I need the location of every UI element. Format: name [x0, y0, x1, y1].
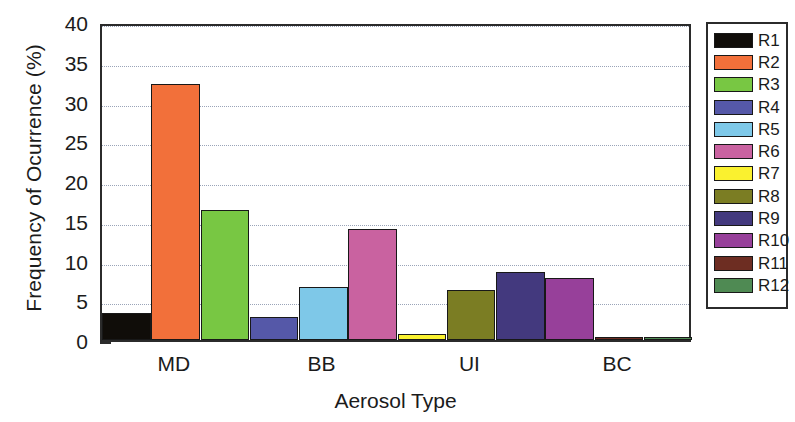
legend-label: R5: [758, 121, 780, 138]
legend-item-r1: R1: [714, 29, 786, 51]
plot-area: [100, 24, 691, 342]
legend-label: R10: [758, 232, 789, 249]
legend-swatch-r12: [714, 278, 753, 293]
y-tick-label: 40: [44, 13, 88, 34]
bar-r8: [447, 290, 496, 340]
bar-r11: [595, 337, 644, 340]
legend-swatch-r8: [714, 189, 753, 204]
legend-item-r7: R7: [714, 163, 786, 185]
legend-item-r2: R2: [714, 51, 786, 73]
plot-inner: [102, 26, 689, 340]
y-tick-label: 35: [44, 53, 88, 74]
legend-label: R7: [758, 165, 780, 182]
bar-r5: [299, 287, 348, 340]
bar-r12: [644, 337, 693, 340]
y-tick-label: 30: [44, 93, 88, 114]
y-tick-major: [100, 342, 111, 344]
x-tick-label-bc: BC: [572, 352, 662, 376]
legend-label: R3: [758, 76, 780, 93]
y-tick-label: 0: [44, 331, 88, 352]
gridline: [102, 26, 689, 27]
bar-chart-figure: Frequency of Ocurrence (%) 0510152025303…: [0, 0, 795, 422]
bar-r3: [201, 210, 250, 340]
y-tick-label: 20: [44, 172, 88, 193]
legend-label: R12: [758, 277, 789, 294]
legend-item-r9: R9: [714, 207, 786, 229]
bar-r2: [151, 84, 200, 340]
legend-swatch-r4: [714, 100, 753, 115]
legend-swatch-r11: [714, 256, 753, 271]
legend-swatch-r3: [714, 77, 753, 92]
bar-r10: [545, 278, 594, 340]
y-axis-title: Frequency of Ocurrence (%): [22, 18, 46, 338]
y-tick-label: 15: [44, 212, 88, 233]
legend-swatch-r2: [714, 55, 753, 70]
x-tick-label-md: MD: [129, 352, 219, 376]
legend-label: R9: [758, 210, 780, 227]
legend-item-r3: R3: [714, 74, 786, 96]
legend-swatch-r5: [714, 122, 753, 137]
legend-item-r12: R12: [714, 274, 786, 296]
legend-swatch-r10: [714, 233, 753, 248]
bar-r4: [250, 317, 299, 340]
y-tick-label: 10: [44, 252, 88, 273]
legend: R1R2R3R4R5R6R7R8R9R10R11R12: [706, 22, 788, 309]
legend-item-r11: R11: [714, 252, 786, 274]
legend-item-r5: R5: [714, 118, 786, 140]
gridline: [102, 66, 689, 67]
legend-label: R2: [758, 54, 780, 71]
y-tick-label: 5: [44, 291, 88, 312]
legend-item-r4: R4: [714, 96, 786, 118]
bar-r9: [496, 272, 545, 340]
legend-swatch-r6: [714, 144, 753, 159]
legend-label: R8: [758, 188, 780, 205]
legend-item-r6: R6: [714, 140, 786, 162]
legend-swatch-r1: [714, 33, 753, 48]
legend-label: R11: [758, 255, 788, 272]
x-tick-label-bb: BB: [277, 352, 367, 376]
legend-item-r8: R8: [714, 185, 786, 207]
x-tick-label-ui: UI: [424, 352, 514, 376]
bar-r7: [398, 334, 447, 340]
bar-r6: [348, 229, 397, 340]
legend-item-r10: R10: [714, 230, 786, 252]
bar-r1: [102, 313, 151, 340]
y-tick-label: 25: [44, 132, 88, 153]
legend-label: R4: [758, 99, 780, 116]
legend-swatch-r9: [714, 211, 753, 226]
legend-label: R6: [758, 143, 780, 160]
legend-label: R1: [758, 32, 780, 49]
legend-swatch-r7: [714, 166, 753, 181]
x-axis-title: Aerosol Type: [100, 389, 691, 413]
